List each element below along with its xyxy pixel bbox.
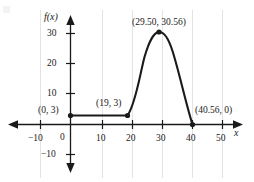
x-tick-label-10: 10 (96, 134, 106, 144)
point-marker-0-3 (68, 113, 73, 118)
point-marker-19-3 (125, 113, 130, 118)
x-tick-label-40: 40 (186, 134, 196, 144)
x-axis-arrow-left (8, 120, 18, 128)
x-tick-label-30: 30 (156, 134, 166, 144)
plot-canvas (0, 0, 254, 182)
y-tick-label-30: 30 (47, 29, 57, 39)
y-axis-arrow-up (66, 15, 74, 25)
x-axis-label: x (234, 128, 238, 138)
x-tick-label-20: 20 (126, 134, 136, 144)
y-tick-label-neg10: −10 (41, 150, 56, 160)
y-axis-label: f(x) (44, 12, 58, 22)
x-tick-label-50: 50 (216, 134, 226, 144)
point-markers (68, 29, 195, 127)
point-label-vertex: (29.50, 30.56) (132, 18, 186, 28)
y-tick-label-20: 20 (47, 59, 57, 69)
x-axis (8, 120, 243, 128)
point-label-19-3: (19, 3) (96, 99, 121, 109)
function-curve (71, 32, 193, 125)
point-marker-root (190, 122, 195, 127)
point-label-root: (40.56, 0) (195, 106, 232, 116)
y-axis-arrow-down (66, 163, 74, 173)
point-marker-vertex (156, 29, 161, 34)
curve-parabola-segment (128, 32, 193, 125)
x-tick-label-neg10: −10 (28, 134, 43, 144)
x-tick-label-0: 0 (60, 133, 65, 143)
point-label-0-3: (0, 3) (38, 106, 59, 116)
y-tick-label-10: 10 (47, 89, 57, 99)
function-graph-figure: f(x) x 30 20 10 −10 −10 0 10 20 30 40 50… (0, 0, 254, 182)
